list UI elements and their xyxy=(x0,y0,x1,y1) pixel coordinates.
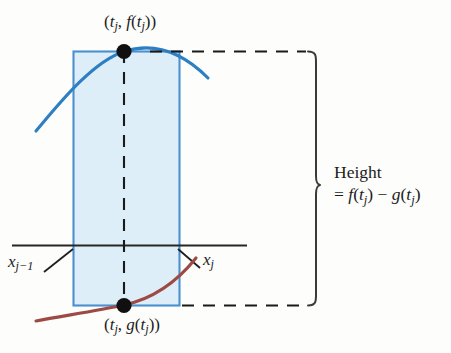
approximating-rectangle xyxy=(74,52,180,306)
label-height-annotation: Height = f(tj) − g(tj) xyxy=(334,163,421,206)
label-x-subinterval-left: xj−1 xyxy=(8,252,33,274)
label-bottom-point: (tj, g(tj)) xyxy=(104,315,160,337)
right-curly-brace-icon xyxy=(308,52,320,306)
label-x-subinterval-right: xj xyxy=(203,250,214,272)
leader-line-xj-1 xyxy=(44,249,73,272)
label-top-point: (tj, f(tj)) xyxy=(104,12,156,34)
height-word: Height xyxy=(334,163,421,183)
point-marker-top xyxy=(116,44,131,59)
height-expression: = f(tj) − g(tj) xyxy=(334,185,421,207)
point-marker-bottom xyxy=(116,298,131,313)
